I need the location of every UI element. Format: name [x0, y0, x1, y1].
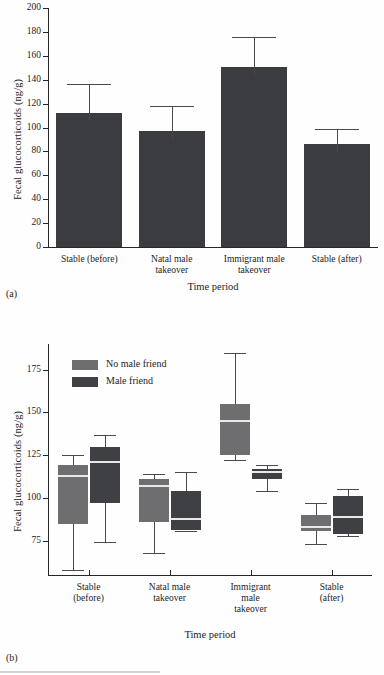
panel-b-y-tick-label: 100 [8, 493, 41, 503]
panel-a-error-cap [150, 106, 194, 107]
panel-b-x-axis-label: Time period [48, 629, 372, 640]
panel-b-y-tick [43, 455, 48, 456]
panel-a-y-tick-label: 20 [8, 218, 41, 228]
panel-a-x-axis [48, 247, 378, 248]
panel-b-category-label: Natal maletakeover [127, 582, 212, 604]
panel-b-whisker-cap-lower [94, 542, 116, 543]
panel-b-y-axis [48, 344, 49, 575]
panel-a-y-tick-label: 0 [8, 242, 41, 252]
panel-a-error-bar [89, 84, 90, 121]
panel-b-whisker-cap-upper [62, 455, 84, 456]
panel-b-whisker-lower [316, 531, 317, 545]
panel-a-y-tick [43, 151, 48, 152]
panel-a-y-tick [43, 199, 48, 200]
panel-a-bar [56, 113, 122, 247]
panel-b-whisker-upper [316, 503, 317, 515]
panel-a-y-tick-label: 40 [8, 194, 41, 204]
panel-a-error-bar [172, 106, 173, 139]
panel-b-y-tick [43, 541, 48, 542]
panel-b-whisker-lower [105, 503, 106, 542]
legend-label: No male friend [106, 358, 167, 369]
panel-b-median-line [171, 518, 201, 520]
panel-b-whisker-cap-upper [175, 472, 197, 473]
panel-a-error-bar [337, 129, 338, 153]
panel-a-y-tick [43, 32, 48, 33]
panel-b-box [220, 404, 250, 455]
panel-b-category-label: Stable(before) [46, 582, 131, 604]
legend-swatch [72, 360, 98, 370]
panel-a-y-tick-label: 120 [8, 99, 41, 109]
panel-a-y-tick [43, 128, 48, 129]
panel-b-box [90, 447, 120, 503]
panel-b-y-tick [43, 498, 48, 499]
panel-b-whisker-cap-upper [337, 489, 359, 490]
panel-b-whisker-lower [73, 524, 74, 570]
caption-edge-artifact [0, 671, 160, 673]
panel-a-category-label: Immigrant maletakeover [209, 254, 300, 276]
panel-a-y-tick-label: 80 [8, 146, 41, 156]
panel-b-whisker-lower [154, 522, 155, 553]
panel-b-whisker-lower [267, 479, 268, 491]
panel-b-median-line [333, 516, 363, 518]
panel-b-whisker-cap-lower [337, 536, 359, 537]
panel-b-median-line [139, 485, 169, 487]
panel-b-whisker-upper [348, 489, 349, 496]
panel-a-x-axis-label: Time period [48, 281, 378, 292]
panel-a-bar-chart: Fecal glucocorticoids (ng/g) 02040608010… [0, 0, 384, 300]
panel-a-bar [304, 144, 370, 247]
panel-a-y-tick [43, 175, 48, 176]
panel-b-y-tick-label: 75 [8, 536, 41, 546]
panel-a-y-tick [43, 80, 48, 81]
panel-b-whisker-cap-upper [305, 503, 327, 504]
panel-b-median-line [252, 471, 282, 473]
panel-a-error-cap [232, 37, 276, 38]
panel-b-tag: (b) [6, 652, 18, 663]
panel-b-whisker-cap-upper [94, 435, 116, 436]
panel-b-x-axis [48, 575, 372, 576]
panel-b-whisker-upper [186, 472, 187, 491]
panel-b-median-line [58, 475, 88, 477]
panel-a-y-tick-label: 140 [8, 75, 41, 85]
panel-a-y-tick [43, 247, 48, 248]
panel-a-y-tick-label: 200 [8, 3, 41, 13]
panel-b-y-tick [43, 412, 48, 413]
panel-a-error-cap [315, 129, 359, 130]
legend-swatch [72, 377, 98, 387]
panel-a-bar [221, 67, 287, 247]
panel-a-tag: (a) [6, 288, 17, 299]
panel-b-whisker-upper [105, 435, 106, 447]
panel-a-y-tick-label: 60 [8, 170, 41, 180]
panel-b-x-tick [332, 570, 333, 575]
panel-b-median-line [220, 420, 250, 422]
panel-a-y-tick [43, 223, 48, 224]
legend-label: Male friend [106, 375, 153, 386]
panel-b-box [171, 491, 201, 530]
panel-a-error-cap [67, 84, 111, 85]
panel-b-median-line [301, 526, 331, 528]
panel-a-y-tick [43, 56, 48, 57]
panel-b-whisker-cap-lower [256, 491, 278, 492]
panel-b-whisker-cap-upper [224, 353, 246, 354]
panel-b-y-tick-label: 150 [8, 407, 41, 417]
panel-a-y-tick-label: 160 [8, 51, 41, 61]
panel-b-y-tick-label: 125 [8, 450, 41, 460]
panel-b-x-tick [89, 570, 90, 575]
panel-a-y-axis [48, 8, 49, 247]
figure-container: Fecal glucocorticoids (ng/g) 02040608010… [0, 0, 384, 675]
panel-a-y-tick-label: 100 [8, 123, 41, 133]
panel-b-y-tick [43, 370, 48, 371]
panel-a-bar [139, 131, 205, 247]
panel-b-whisker-upper [235, 353, 236, 404]
panel-b-y-tick-label: 175 [8, 365, 41, 375]
panel-b-category-label: Immigrantmaletakeover [208, 582, 293, 616]
panel-b-box [301, 515, 331, 530]
panel-a-category-label: Stable (after) [292, 254, 383, 265]
panel-b-x-tick [170, 570, 171, 575]
panel-b-whisker-cap-lower [305, 544, 327, 545]
panel-b-whisker-cap-upper [256, 465, 278, 466]
panel-b-whisker-cap-lower [224, 460, 246, 461]
panel-b-whisker-cap-upper [143, 474, 165, 475]
panel-b-x-tick [251, 570, 252, 575]
panel-b-category-label: Stable(after) [289, 582, 374, 604]
panel-b-plot-area: 75100125150175Stable(before)Natal maleta… [0, 300, 384, 675]
